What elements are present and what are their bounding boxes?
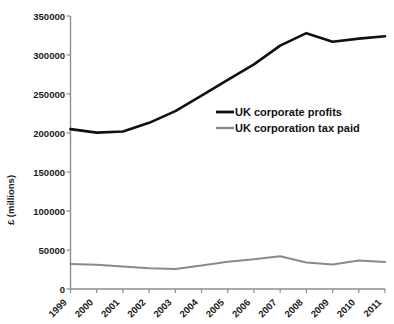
- y-tick-label: 250000: [33, 89, 65, 100]
- y-tick-label: 150000: [33, 167, 65, 178]
- x-tick-label: 2003: [151, 297, 174, 320]
- series-line-uk-corporation-tax-paid: [71, 256, 386, 269]
- y-tick-label: 50000: [39, 245, 65, 256]
- legend-label-profits: UK corporate profits: [235, 106, 342, 118]
- x-tick-label: 2000: [72, 297, 95, 320]
- x-tick-label: 2005: [203, 296, 226, 319]
- x-tick-label: 2009: [308, 297, 331, 320]
- legend-label-tax: UK corporation tax paid: [235, 122, 360, 134]
- y-tick-label: 350000: [33, 11, 65, 22]
- x-tick-label: 2007: [256, 297, 279, 320]
- x-tick-label: 2001: [99, 296, 122, 319]
- x-tick-label: 2004: [177, 296, 200, 319]
- x-tick-label: 2010: [334, 297, 357, 320]
- x-tick-label: 2011: [361, 296, 384, 319]
- x-tick-label: 1999: [46, 297, 69, 320]
- line-chart: 0500001000001500002000002500003000003500…: [0, 0, 394, 324]
- y-tick-label: 0: [60, 284, 65, 295]
- x-axis-tick-labels: 1999200020012002200320042005200620072008…: [46, 296, 384, 319]
- axis-tick-marks: [67, 16, 386, 293]
- chart-container: 0500001000001500002000002500003000003500…: [0, 0, 394, 324]
- y-axis-title: £ (millions): [5, 175, 16, 225]
- y-tick-label: 200000: [33, 128, 65, 139]
- y-tick-label: 300000: [33, 50, 65, 61]
- y-tick-label: 100000: [33, 206, 65, 217]
- x-tick-label: 2008: [282, 297, 305, 320]
- x-tick-label: 2002: [125, 297, 148, 320]
- chart-legend: UK corporate profits UK corporation tax …: [216, 106, 360, 134]
- y-axis-tick-labels: 0500001000001500002000002500003000003500…: [33, 11, 65, 295]
- x-tick-label: 2006: [230, 297, 253, 320]
